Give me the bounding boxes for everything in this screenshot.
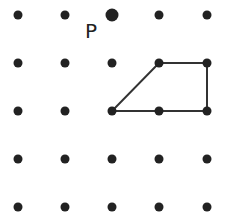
grid-dot bbox=[203, 11, 212, 20]
grid-dot bbox=[14, 11, 23, 20]
grid-dot bbox=[61, 203, 70, 212]
trapezoid-shape bbox=[112, 63, 207, 111]
grid-dot bbox=[108, 59, 117, 68]
grid-dot bbox=[203, 155, 212, 164]
grid-dot bbox=[203, 203, 212, 212]
grid-dot bbox=[203, 107, 212, 116]
point-p-dot bbox=[106, 9, 119, 22]
trapezoid-outline bbox=[112, 63, 207, 111]
grid-dot bbox=[203, 59, 212, 68]
grid-dot bbox=[155, 107, 164, 116]
grid-dot bbox=[155, 155, 164, 164]
grid-dot bbox=[14, 203, 23, 212]
grid-dot bbox=[155, 59, 164, 68]
grid-dot bbox=[14, 155, 23, 164]
point-p-label: P bbox=[85, 19, 97, 43]
dot-grid-diagram: P bbox=[0, 0, 232, 214]
grid-dot bbox=[14, 59, 23, 68]
grid-dot bbox=[108, 203, 117, 212]
grid-dot bbox=[155, 11, 164, 20]
grid-dot bbox=[61, 155, 70, 164]
grid-dot bbox=[108, 155, 117, 164]
grid-dot bbox=[61, 107, 70, 116]
grid-dot bbox=[61, 11, 70, 20]
grid-dot bbox=[155, 203, 164, 212]
grid-dot bbox=[61, 59, 70, 68]
grid-dot bbox=[108, 107, 117, 116]
grid-dot bbox=[14, 107, 23, 116]
